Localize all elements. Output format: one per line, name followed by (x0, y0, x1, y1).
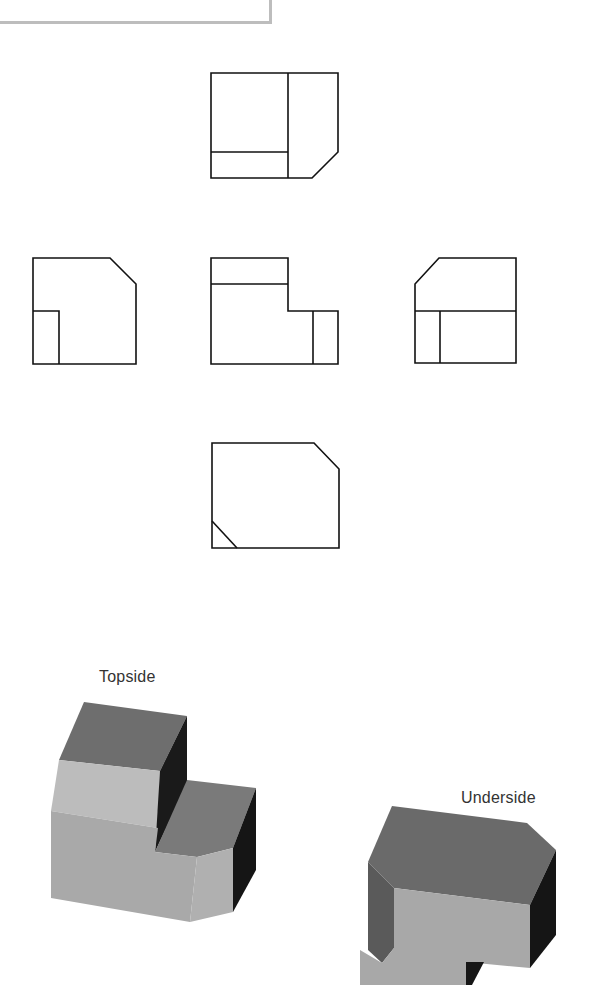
technical-drawing (0, 0, 591, 985)
isometric-underside-render (360, 806, 556, 985)
topside-label: Topside (99, 668, 156, 686)
orthographic-top-view (211, 73, 338, 178)
orthographic-left-view (33, 258, 136, 364)
orthographic-bottom-view (212, 443, 339, 548)
orthographic-front-view (211, 258, 338, 364)
orthographic-right-view (415, 258, 516, 363)
isometric-topside-render (51, 702, 256, 922)
underside-label: Underside (461, 789, 536, 807)
